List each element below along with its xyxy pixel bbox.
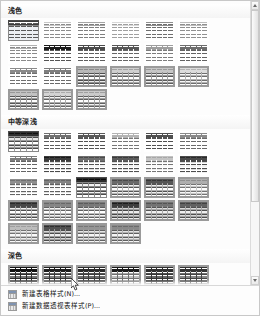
table-style-swatch[interactable] [76,223,107,244]
swatch-row [10,230,37,232]
swatch-cell [202,80,207,82]
swatch-cell [95,34,100,36]
swatch-cell [61,187,66,189]
swatch-cell [186,164,191,166]
scrollbar-thumb[interactable] [251,10,259,202]
table-style-swatch[interactable] [144,200,175,221]
swatch-cell [129,191,134,193]
table-style-swatch[interactable] [178,43,209,64]
table-style-swatch[interactable] [8,66,39,87]
swatch-cell [66,194,71,196]
swatch-cell [191,217,196,219]
table-style-swatch[interactable] [42,223,73,244]
table-style-swatch[interactable] [110,265,141,285]
table-style-swatch[interactable] [8,177,39,198]
table-style-swatch[interactable] [8,265,39,285]
swatch-cell [123,145,128,147]
table-style-swatch[interactable] [178,66,209,87]
table-style-swatch[interactable] [76,200,107,221]
table-style-swatch[interactable] [8,43,39,64]
gallery-scroll-area[interactable]: 浅色中等深浅深色 [1,1,259,285]
swatch-cell [168,279,173,281]
swatch-cell [95,183,100,186]
table-style-swatch[interactable] [42,131,73,152]
table-style-swatch[interactable] [178,20,209,41]
swatch-cell [44,145,49,147]
table-style-swatch[interactable] [42,177,73,198]
table-style-swatch[interactable] [42,89,73,110]
swatch-row [112,210,139,212]
swatch-row [44,57,71,59]
table-style-swatch[interactable] [178,154,209,175]
swatch-cell [32,282,37,284]
table-style-swatch[interactable] [110,177,141,198]
swatch-row [146,272,173,274]
table-style-swatch[interactable] [8,131,39,152]
table-style-swatch[interactable] [144,131,175,152]
swatch-cell [157,27,162,29]
swatch-cell [84,53,89,55]
table-style-swatch[interactable] [178,131,209,152]
scroll-up-arrow[interactable] [251,1,259,10]
swatch-cell [157,145,162,147]
swatch-body-rows [112,161,139,173]
table-style-swatch[interactable] [76,265,107,285]
swatch-body-rows [146,27,173,39]
swatch-cell [118,161,123,163]
swatch-row [146,210,173,212]
table-style-swatch[interactable] [144,265,175,285]
table-style-swatch[interactable] [110,131,141,152]
table-style-swatch[interactable] [8,20,39,41]
scrollbar-track[interactable] [251,10,259,276]
gallery-scrollbar[interactable] [250,1,259,285]
table-style-swatch[interactable] [110,200,141,221]
table-style-swatch[interactable] [42,66,73,87]
table-style-swatch[interactable] [144,66,175,87]
swatch-cell [180,207,185,209]
table-style-swatch[interactable] [110,154,141,175]
table-style-swatch[interactable] [144,154,175,175]
swatch-row [180,53,207,55]
table-style-swatch[interactable] [110,43,141,64]
swatch-row [10,272,37,274]
table-style-swatch[interactable] [8,200,39,221]
swatch-cell [100,279,105,281]
table-style-swatch[interactable] [76,43,107,64]
swatch-cell [84,27,89,29]
table-style-swatch[interactable] [76,177,107,198]
swatch-cell [16,194,21,196]
table-style-swatch[interactable] [8,89,39,110]
swatch-grid [1,18,247,113]
table-style-swatch[interactable] [76,154,107,175]
table-style-swatch[interactable] [42,154,73,175]
table-style-swatch[interactable] [42,200,73,221]
swatch-cell [191,60,196,62]
table-style-swatch[interactable] [8,223,39,244]
menu-item-new-table-style[interactable]: 新建表格样式(N)... [1,288,259,300]
table-style-swatch[interactable] [76,89,107,110]
swatch-cell [27,164,32,166]
table-style-swatch[interactable] [144,43,175,64]
table-style-swatch[interactable] [110,223,141,244]
table-style-swatch[interactable] [178,200,209,221]
table-style-swatch[interactable] [76,66,107,87]
menu-item-new-pivottable-style[interactable]: 新建数据透视表样式(P)... [1,300,259,312]
swatch-row [146,145,173,147]
table-style-swatch[interactable] [8,154,39,175]
scroll-down-arrow[interactable] [251,276,259,285]
table-style-swatch[interactable] [42,43,73,64]
swatch-cell [163,164,168,166]
swatch-cell [10,168,15,170]
table-style-swatch[interactable] [76,131,107,152]
table-style-swatch[interactable] [42,265,73,285]
table-style-swatch[interactable] [178,177,209,198]
table-style-swatch[interactable] [178,265,209,285]
table-style-swatch[interactable] [76,20,107,41]
table-style-swatch[interactable] [110,20,141,41]
table-style-swatch[interactable] [144,20,175,41]
table-style-swatch[interactable] [42,20,73,41]
swatch-cell [95,76,100,78]
table-style-swatch[interactable] [110,66,141,87]
table-style-swatch[interactable] [144,177,175,198]
swatch-row [44,50,71,52]
